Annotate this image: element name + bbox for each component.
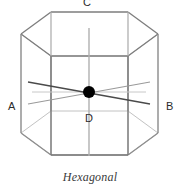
bottom-edge-front-right bbox=[128, 133, 158, 155]
top-edge-back-left bbox=[21, 12, 51, 34]
crystal-axes-diagram bbox=[0, 0, 180, 190]
top-edge-front-left bbox=[21, 34, 51, 56]
bottom-edge-back-right bbox=[128, 111, 158, 133]
axis-label-a: A bbox=[8, 101, 15, 112]
axis-label-d: D bbox=[85, 113, 93, 124]
bottom-edge-front-left bbox=[21, 133, 51, 155]
top-edge-back-right bbox=[128, 12, 158, 34]
top-edge-front-right bbox=[128, 34, 158, 56]
origin-dot bbox=[83, 86, 95, 98]
figure-caption: Hexagonal bbox=[0, 170, 180, 185]
bottom-edge-back-left bbox=[21, 111, 51, 133]
axis-label-c: C bbox=[83, 0, 91, 8]
hexagonal-prism-figure: C A B D Hexagonal bbox=[0, 0, 180, 190]
axis-label-b: B bbox=[166, 101, 173, 112]
